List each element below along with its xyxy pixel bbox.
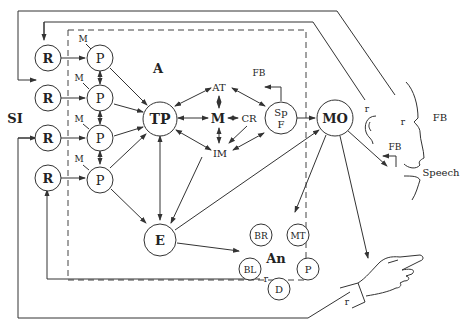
arrow-p4-e	[111, 189, 146, 223]
arrow-mo-mouth	[347, 130, 387, 166]
receptor-node-1: R	[35, 45, 61, 71]
m-tag: M	[74, 114, 83, 124]
information-processing-diagram: R R R R P M P M M P P M TP	[0, 0, 470, 332]
svg-text:F: F	[278, 119, 285, 130]
svg-text:R: R	[43, 91, 54, 106]
at-label: AT	[211, 82, 226, 93]
svg-text:P: P	[96, 51, 105, 66]
processor-node-1: P M	[78, 34, 113, 71]
m-label: M	[211, 111, 225, 126]
mo-node: MO	[317, 100, 353, 136]
fb-arrow-mouth	[383, 156, 396, 167]
arrow-im-spf	[233, 133, 264, 150]
svg-text:R: R	[43, 171, 54, 186]
arrow-tp-at	[175, 88, 211, 106]
fb-label-mouth: FB	[389, 142, 402, 152]
r-label-hand: r	[345, 297, 350, 307]
svg-text:TP: TP	[150, 111, 171, 127]
an-group: An BR MT BL P D	[239, 224, 319, 300]
receptor-node-4: R	[35, 165, 61, 191]
arrow-tp-im	[176, 130, 211, 150]
an-item-br: BR	[254, 231, 268, 241]
an-item-p: P	[305, 264, 312, 275]
r-label-face: r	[401, 117, 406, 127]
arrow-p2-tp	[114, 104, 143, 112]
svg-text:MO: MO	[322, 111, 348, 126]
si-label: SI	[7, 111, 22, 126]
hand-icon	[340, 255, 423, 308]
processor-node-3: M P	[74, 114, 113, 151]
svg-text:R: R	[43, 131, 54, 146]
svg-text:P: P	[96, 173, 105, 188]
region-a-label: A	[152, 61, 164, 76]
cr-label: CR	[241, 113, 257, 124]
m-tag: M	[74, 73, 83, 83]
r-label-ear: r	[365, 104, 370, 114]
processor-node-2: P M	[74, 73, 113, 111]
r-label-bottom: r	[264, 274, 269, 284]
face-profile-icon	[404, 82, 424, 200]
an-item-d: D	[275, 284, 283, 295]
arrow-e-mo	[175, 130, 319, 230]
receptor-node-2: R	[35, 85, 61, 111]
svg-text:P: P	[96, 91, 105, 106]
arrow-p3-tp	[114, 127, 143, 136]
speech-label: Speech	[422, 167, 460, 178]
arrow-cr-im	[229, 126, 247, 143]
fb-arrow-spf	[265, 87, 281, 101]
svg-text:E: E	[155, 233, 165, 248]
arrow-p4-tp	[110, 134, 146, 168]
an-item-bl: BL	[244, 265, 257, 275]
arrow-mo-an	[295, 135, 326, 212]
processor-node-4: P M	[74, 154, 113, 193]
tp-node: TP	[143, 102, 177, 136]
svg-text:Sp: Sp	[274, 107, 287, 118]
svg-text:R: R	[43, 51, 54, 66]
arrow-e-an	[177, 243, 239, 251]
spf-node: Sp F	[265, 102, 297, 134]
fb-label-face: FB	[433, 112, 447, 123]
arrow-mo-hand	[340, 136, 368, 258]
arrow-at-spf	[232, 88, 265, 106]
e-node: E	[144, 224, 176, 256]
an-label: An	[265, 251, 286, 266]
m-tag: M	[74, 154, 83, 164]
im-label: IM	[213, 148, 227, 159]
an-item-mt: MT	[290, 231, 305, 241]
receptor-node-3: R	[35, 125, 61, 151]
fb-label-spf: FB	[253, 68, 266, 78]
svg-text:P: P	[96, 131, 105, 146]
m-tag: M	[78, 34, 87, 44]
arrow-p1-tp	[110, 68, 147, 105]
arrow-im-e	[171, 157, 202, 223]
